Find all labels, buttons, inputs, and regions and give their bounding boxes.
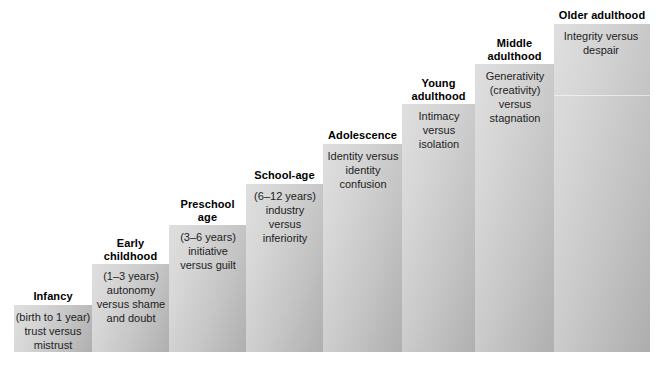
- stage-label-older-adulthood: Older adulthood: [550, 7, 654, 24]
- stage-label-preschool-age: Preschool age: [169, 196, 246, 225]
- erikson-stages-diagram: Infancy (birth to 1 year) trust versus m…: [0, 0, 663, 368]
- stage-body-young-adulthood: Intimacy versus isolation: [398, 109, 480, 151]
- stage-label-school-age: School-age: [246, 167, 323, 184]
- tread-highlight-line: [554, 95, 650, 96]
- stage-label-early-childhood: Early childhood: [92, 235, 169, 264]
- stage-body-middle-adulthood: Generativity (creativity) versus stagnat…: [469, 69, 561, 125]
- stage-body-preschool-age: (3–6 years) initiative versus guilt: [164, 230, 252, 272]
- stage-label-adolescence: Adolescence: [323, 127, 402, 144]
- stage-label-young-adulthood: Young adulthood: [402, 75, 475, 104]
- stage-label-infancy: Infancy: [14, 288, 92, 305]
- stage-body-adolescence: Identity versus identity confusion: [317, 149, 409, 191]
- stage-body-early-childhood: (1–3 years) autonomy versus shame and do…: [86, 269, 176, 325]
- stage-body-older-adulthood: Integrity versus despair: [549, 29, 653, 57]
- step-block-older-adulthood: [554, 24, 650, 352]
- stage-label-middle-adulthood: Middle adulthood: [475, 35, 554, 64]
- stage-body-school-age: (6–12 years) industry versus inferiority: [240, 189, 330, 245]
